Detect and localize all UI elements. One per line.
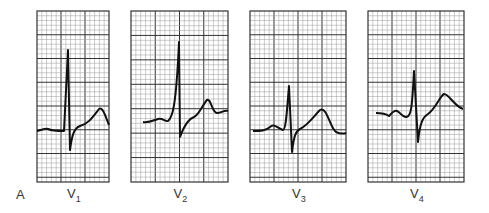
lead-label: V4 bbox=[410, 186, 424, 204]
ecg-trace bbox=[37, 50, 109, 150]
panel-letter: A bbox=[16, 187, 25, 202]
ecg-figure: V1V2V3V4 A bbox=[0, 0, 489, 213]
lead-label: V1 bbox=[67, 186, 81, 204]
lead-panel-v2: V2 bbox=[131, 11, 228, 204]
lead-label: V3 bbox=[292, 186, 306, 204]
lead-panel-v3: V3 bbox=[250, 11, 346, 204]
lead-label: V2 bbox=[174, 186, 188, 204]
ecg-trace bbox=[253, 86, 346, 152]
lead-panel-v4: V4 bbox=[368, 11, 464, 204]
lead-panel-v1: V1 bbox=[37, 11, 109, 204]
